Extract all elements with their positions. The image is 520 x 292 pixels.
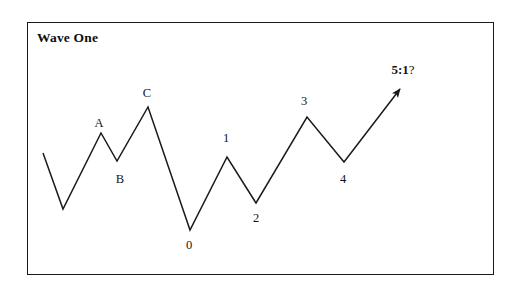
- label-c: C: [143, 86, 151, 101]
- label-3: 3: [301, 94, 307, 109]
- figure-title: Wave One: [37, 30, 98, 46]
- label-1: 1: [223, 131, 229, 146]
- figure-border: [27, 22, 494, 275]
- label-0: 0: [186, 238, 192, 253]
- ratio-question-mark: ?: [409, 62, 415, 77]
- label-ratio-5-1: 5:1?: [391, 62, 414, 78]
- ratio-bold-text: 5:1: [391, 62, 408, 77]
- figure-screenshot: Wave One ABC01234 5:1?: [0, 0, 520, 292]
- label-4: 4: [340, 172, 346, 187]
- label-2: 2: [253, 211, 259, 226]
- label-a: A: [94, 116, 103, 131]
- label-b: B: [116, 172, 124, 187]
